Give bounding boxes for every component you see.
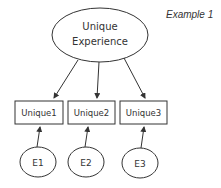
latent-label-line1: Unique [82, 21, 117, 32]
error-e2: E2 [68, 147, 104, 177]
indicator-unique1: Unique1 [15, 101, 63, 124]
indicator-label: Unique3 [126, 108, 161, 118]
error-label: E2 [80, 158, 91, 168]
path-diagram: Example 1 Unique Experience Unique1 Uniq… [0, 0, 221, 188]
arrow-e2-to-unique2 [85, 127, 88, 147]
error-label: E3 [134, 159, 145, 169]
arrow-to-unique3 [124, 58, 145, 98]
latent-label-line2: Experience [72, 36, 128, 47]
error-e1: E1 [20, 147, 56, 177]
latent-unique-experience: Unique Experience [52, 8, 148, 62]
arrow-e1-to-unique1 [37, 127, 40, 147]
arrow-to-unique2 [97, 62, 99, 98]
error-label: E1 [32, 158, 43, 168]
arrow-to-unique1 [54, 60, 78, 98]
loading-arrows [54, 58, 145, 98]
arrow-e3-to-unique3 [141, 127, 144, 148]
error-e3: E3 [122, 148, 158, 178]
indicator-label: Unique1 [21, 108, 56, 118]
indicator-unique3: Unique3 [120, 101, 167, 124]
error-arrows [37, 127, 144, 148]
indicator-unique2: Unique2 [68, 101, 115, 124]
diagram-title: Example 1 [166, 9, 213, 20]
indicator-label: Unique2 [74, 108, 109, 118]
